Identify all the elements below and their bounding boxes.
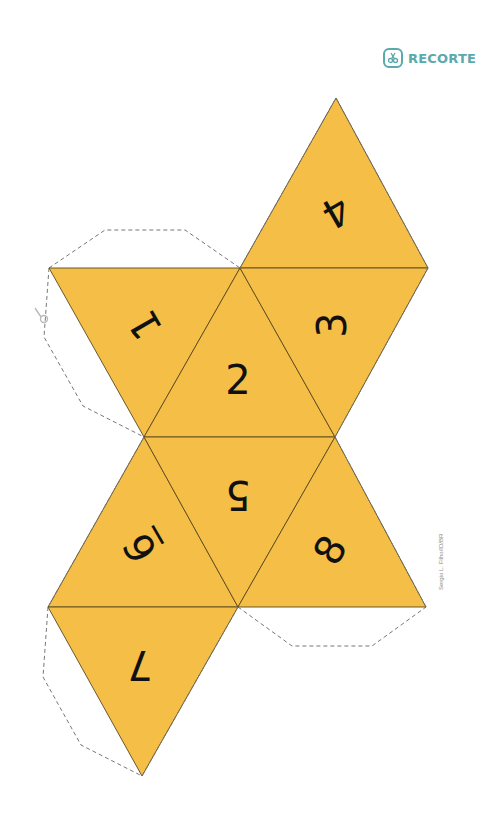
image-credit: Sergio L. Filho/ID/BR — [438, 534, 444, 590]
octahedron-net: 41236̲587 — [0, 0, 494, 819]
faces — [48, 98, 428, 776]
face-4 — [240, 98, 428, 268]
face-number-7: 7 — [127, 642, 152, 688]
glue-flap-4 — [238, 607, 426, 646]
face-number-3: 3 — [309, 312, 355, 337]
scissors-icon — [383, 48, 403, 68]
face-number-2: 2 — [225, 357, 250, 403]
face-7 — [48, 607, 238, 776]
recorte-badge: RECORTE — [383, 48, 476, 68]
recorte-label: RECORTE — [408, 51, 476, 66]
glue-flap-1 — [49, 230, 240, 268]
face-number-5: 5 — [225, 472, 250, 518]
